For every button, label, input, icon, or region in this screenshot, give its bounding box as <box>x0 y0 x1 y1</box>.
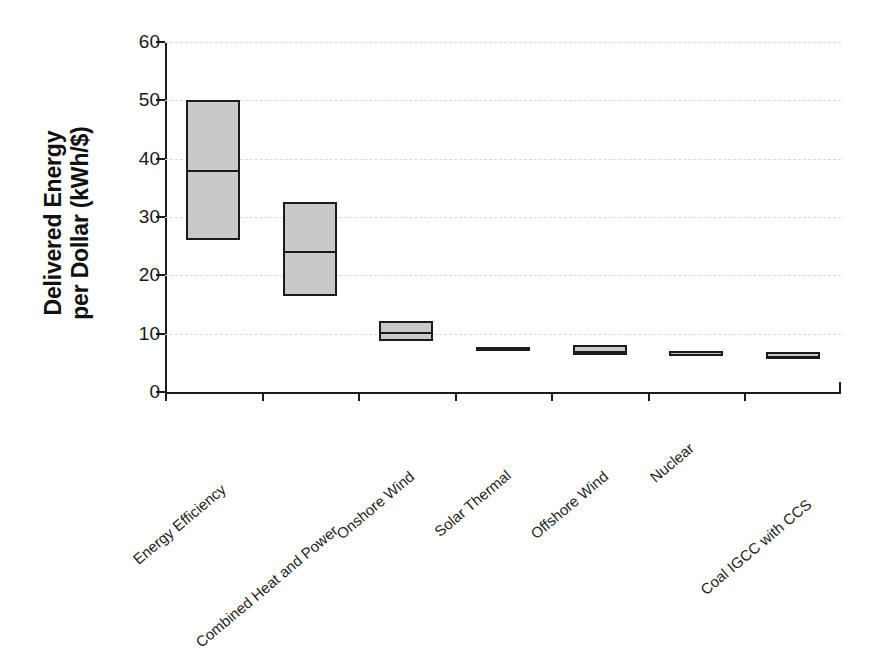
x-axis-tick-mark <box>165 392 167 401</box>
y-axis-title: Delivered Energy per Dollar (kWh/$) <box>40 58 94 388</box>
y-axis-tick-mark <box>156 216 165 218</box>
x-axis-category-label: Onshore Wind <box>333 468 417 543</box>
box-range-onshore-wind <box>379 321 433 341</box>
x-axis-category-label: Combined Heat and Power <box>192 522 341 650</box>
x-axis-tick-mark <box>358 392 360 401</box>
gridline <box>165 159 841 160</box>
x-axis-category-label: Offshore Wind <box>527 467 611 541</box>
y-axis-tick-mark <box>156 274 165 276</box>
y-axis-title-line-2: per Dollar (kWh/$) <box>67 58 94 388</box>
y-axis-tick-labels: 0102030405060 <box>104 0 160 440</box>
median-line <box>669 354 723 356</box>
y-axis-title-wrapper: Delivered Energy per Dollar (kWh/$) <box>0 0 120 440</box>
y-axis-tick-mark <box>156 41 165 43</box>
x-axis-category-label: Nuclear <box>647 439 698 485</box>
x-axis-tick-mark <box>455 392 457 401</box>
x-axis-category-label: Energy Efficiency <box>130 480 230 567</box>
x-axis-tick-mark <box>648 392 650 401</box>
median-line <box>186 170 240 172</box>
x-axis-category-label: Coal IGCC with CCS <box>697 495 815 598</box>
x-axis-tick-mark <box>744 392 746 401</box>
x-axis-tick-mark <box>262 392 264 401</box>
box-rect <box>283 202 337 295</box>
gridline <box>165 275 841 276</box>
box-range-coal-igcc-with-ccs <box>766 352 820 358</box>
x-axis-category-label: Solar Thermal <box>431 466 514 539</box>
box-range-combined-heat-and-power <box>283 202 337 295</box>
plot-area <box>165 30 841 402</box>
median-line <box>379 332 433 334</box>
y-axis-tick-label: 40 <box>104 148 160 170</box>
y-axis-tick-mark <box>156 99 165 101</box>
median-line <box>283 251 337 253</box>
y-axis-tick-label: 10 <box>104 323 160 345</box>
y-axis-tick-mark <box>156 333 165 335</box>
gridline <box>165 100 841 101</box>
y-axis-tick-label: 60 <box>104 31 160 53</box>
y-axis-tick-label: 30 <box>104 206 160 228</box>
box-range-nuclear <box>669 351 723 356</box>
box-rect <box>379 321 433 341</box>
y-axis-tick-label: 50 <box>104 89 160 111</box>
median-line <box>476 348 530 350</box>
y-axis-tick-mark <box>156 391 165 393</box>
y-axis-tick-label: 20 <box>104 264 160 286</box>
y-axis-tick-mark <box>156 158 165 160</box>
gridline <box>165 217 841 218</box>
gridline <box>165 42 841 43</box>
y-axis-tick-label: 0 <box>104 381 160 403</box>
median-line <box>766 356 820 358</box>
median-line <box>573 351 627 353</box>
x-axis-tick-mark <box>551 392 553 401</box>
box-range-energy-efficiency <box>186 100 240 240</box>
box-range-solar-thermal <box>476 347 530 350</box>
box-range-offshore-wind <box>573 345 627 355</box>
y-axis-title-line-1: Delivered Energy <box>40 58 67 388</box>
gridline <box>165 334 841 335</box>
